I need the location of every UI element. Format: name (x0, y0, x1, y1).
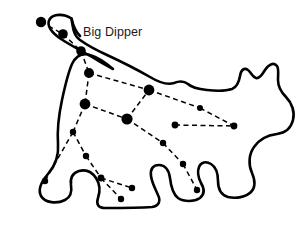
star-leg-junction (98, 175, 105, 182)
star-mid-paw-right (129, 185, 135, 191)
bear-outline-path (40, 15, 294, 208)
bear-outline-group (40, 15, 294, 208)
star-foreleg-upper (70, 129, 76, 135)
star-nose (231, 123, 238, 130)
star-handle-tip (36, 17, 46, 27)
star-bowl-bottom-left (80, 99, 91, 110)
star-foreleg-mid (83, 153, 89, 159)
constellation-figure: Big Dipper (0, 0, 307, 227)
star-bowl-bottom-right (121, 113, 132, 124)
star-front-paw (42, 178, 48, 184)
big-dipper-label: Big Dipper (83, 25, 142, 39)
star-back-mid (197, 105, 203, 111)
constellation-canvas: Big Dipper (0, 0, 307, 227)
star-hind-paw (194, 187, 200, 193)
star-bowl-top-right (144, 85, 155, 96)
star-handle-2 (58, 29, 68, 39)
star-handle-3 (76, 46, 86, 56)
star-hindleg-mid (180, 161, 186, 167)
star-belly-mid (160, 140, 166, 146)
star-bowl-top-left (84, 68, 94, 78)
star-mid-paw-low (118, 196, 124, 202)
star-hind-hip (172, 122, 179, 129)
